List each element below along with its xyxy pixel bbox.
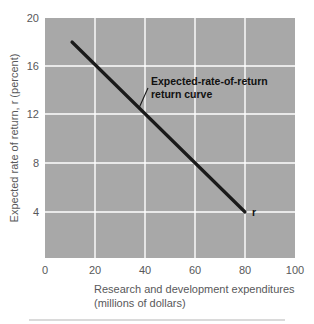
curve-annotation-line2: return curve <box>151 88 212 100</box>
x-tick-label-0: 0 <box>42 264 48 276</box>
curve-annotation-line1: Expected-rate-of-return <box>151 75 268 87</box>
y-tick-label-12: 12 <box>27 108 39 120</box>
x-axis-title-line2: (millions of dollars) <box>94 297 186 309</box>
y-tick-label-16: 16 <box>27 60 39 72</box>
x-tick-label-60: 60 <box>189 264 201 276</box>
x-tick-label-100: 100 <box>286 264 304 276</box>
y-tick-label-8: 8 <box>33 157 39 169</box>
expected-rate-of-return-chart: Expected-rate-of-return return curve r 2… <box>0 0 314 324</box>
x-tick-label-80: 80 <box>239 264 251 276</box>
figure-container: Expected-rate-of-return return curve r 2… <box>0 0 314 324</box>
x-tick-label-40: 40 <box>139 264 151 276</box>
y-tick-label-20: 20 <box>27 12 39 24</box>
curve-symbol-label: r <box>252 206 256 218</box>
y-axis-title: Expected rate of return, r (percent) <box>8 54 20 223</box>
x-axis-title-line1: Research and development expenditures <box>94 283 295 295</box>
y-tick-label-4: 4 <box>33 206 39 218</box>
x-tick-label-20: 20 <box>89 264 101 276</box>
